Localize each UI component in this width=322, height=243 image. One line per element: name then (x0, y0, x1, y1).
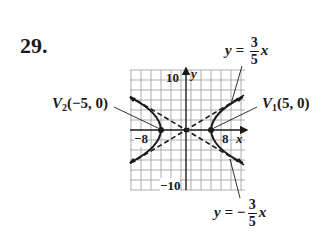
asymptote-neg-label: y = −35x (214, 198, 266, 229)
x-tick-neg8: −8 (134, 131, 148, 147)
vertex-v2 (158, 127, 164, 133)
vertex-v1 (208, 127, 214, 133)
leader-asymptote-neg (230, 159, 240, 198)
y-tick-10: 10 (166, 70, 179, 86)
x-tick-8: 8 (222, 131, 229, 147)
vertex-v1-label: V1(5, 0) (262, 95, 310, 113)
x-axis-label: x (236, 131, 243, 147)
y-tick-neg10: −10 (160, 178, 180, 194)
y-axis-label: y (191, 66, 197, 82)
vertex-v2-label: V2(−5, 0) (52, 95, 108, 113)
hyperbola-graph (0, 0, 322, 243)
asymptote-pos-label: y = 35x (225, 36, 268, 67)
center-point (184, 128, 189, 133)
